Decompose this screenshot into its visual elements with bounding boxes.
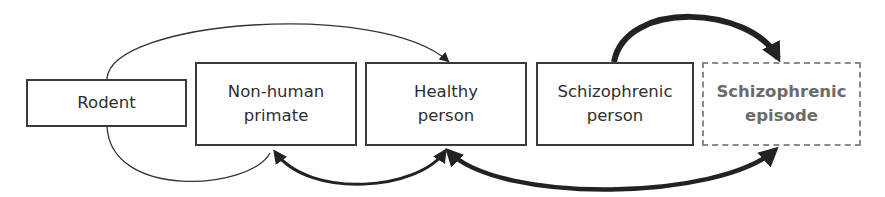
node-schizophrenic-person: Schizophrenic person (536, 62, 694, 146)
node-label: Rodent (77, 91, 135, 115)
node-schizophrenic-episode: Schizophrenic episode (702, 62, 861, 146)
node-label: Healthy person (414, 80, 478, 128)
node-label: Schizophrenic person (558, 80, 673, 128)
edge-healthy-episode (448, 150, 775, 190)
node-healthy-person: Healthy person (365, 62, 527, 146)
edge-primate-healthy (275, 151, 445, 184)
node-rodent: Rodent (26, 79, 187, 127)
node-label: Schizophrenic episode (716, 80, 846, 128)
node-label: Non-human primate (228, 80, 324, 128)
node-non-human-primate: Non-human primate (195, 62, 357, 146)
edge-person-episode (614, 17, 778, 62)
